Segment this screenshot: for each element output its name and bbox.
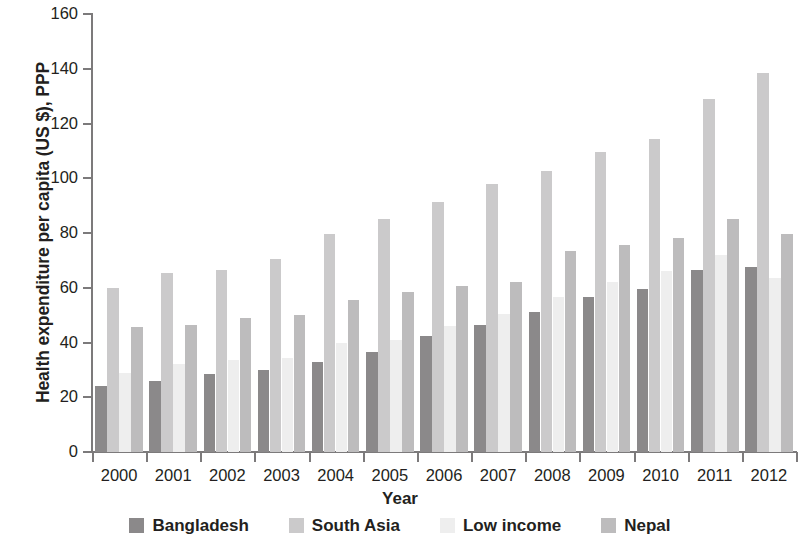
legend-item: Low income [440,517,561,534]
x-tick-label: 2012 [734,466,800,484]
bar [348,300,360,452]
bar [161,273,173,452]
bar-group [417,14,471,452]
x-tick-mark [471,452,473,462]
bar [402,292,414,452]
x-axis-title: Year [0,489,800,509]
chart-figure: Health expenditure per capita (US $), PP… [0,0,800,547]
legend-label: Nepal [624,517,670,534]
bar [294,315,306,452]
x-tick-mark [796,452,798,462]
legend-item: Nepal [601,517,670,534]
bar-group [146,14,200,452]
legend-item: Bangladesh [129,517,248,534]
bar [510,282,522,452]
x-tick-mark [579,452,581,462]
bar [529,312,541,452]
bar-group [363,14,417,452]
bar [119,373,131,452]
bar [649,139,661,452]
x-tick-mark [254,452,256,462]
bar-group [579,14,633,452]
bar [553,297,565,452]
bar [228,360,240,452]
bar [565,251,577,452]
bar-group [471,14,525,452]
bar [474,325,486,452]
bar [583,297,595,452]
bar [456,286,468,452]
bar [541,171,553,452]
bar-group [200,14,254,452]
x-tick-mark [200,452,202,462]
x-tick-mark [363,452,365,462]
x-tick-mark [634,452,636,462]
x-tick-mark [742,452,744,462]
bar-group [525,14,579,452]
bar [204,374,216,452]
bar [757,73,769,452]
bar [595,152,607,452]
bar [131,327,143,452]
bar-group [634,14,688,452]
legend-label: Low income [463,517,561,534]
bar [637,289,649,452]
bar [745,267,757,452]
legend-swatch-icon [601,518,616,533]
legend-swatch-icon [129,518,144,533]
legend-swatch-icon [440,518,455,533]
bar [378,219,390,452]
bar [149,381,161,452]
x-tick-mark [417,452,419,462]
plot-bars-layer [0,14,800,452]
bar [486,184,498,452]
bar [673,238,685,452]
x-tick-mark [146,452,148,462]
bar [390,340,402,452]
bar [312,362,324,452]
bar [769,278,781,452]
bar [270,259,282,452]
bar [216,270,228,452]
bar [336,343,348,453]
bar [619,245,631,452]
legend-item: South Asia [289,517,400,534]
x-tick-mark [688,452,690,462]
bar [107,288,119,452]
bar [661,271,673,452]
bar [715,255,727,452]
bar [95,386,107,452]
bar [324,234,336,452]
bar-group [309,14,363,452]
bar [240,318,252,452]
legend-label: South Asia [312,517,400,534]
bar [258,370,270,452]
bar [498,314,510,452]
bar [444,326,456,452]
bar [282,358,294,452]
bar [173,364,185,452]
chart-legend: BangladeshSouth AsiaLow incomeNepal [0,517,800,534]
x-tick-mark [309,452,311,462]
bar [432,202,444,452]
x-tick-mark [92,452,94,462]
bar [703,99,715,452]
legend-label: Bangladesh [152,517,248,534]
x-tick-mark [525,452,527,462]
bar [691,270,703,452]
bar-group [688,14,742,452]
bar-group [92,14,146,452]
bar [607,282,619,452]
bar-group [254,14,308,452]
bar [185,325,197,452]
bar [781,234,793,452]
bar [366,352,378,452]
legend-swatch-icon [289,518,304,533]
bar-group [742,14,796,452]
bar [420,336,432,452]
bar [727,219,739,452]
